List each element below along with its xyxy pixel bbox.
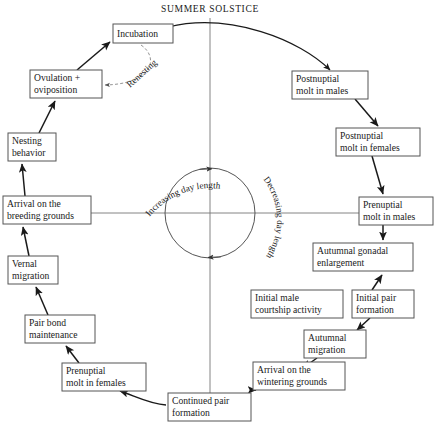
node-label: Arrival on the — [257, 364, 311, 375]
node-label: Autumnal gonadal — [317, 245, 388, 256]
node-initial-courtship[interactable]: Initial malecourtship activity — [251, 290, 343, 318]
node-label: migration — [12, 270, 50, 281]
node-arrival-breeding[interactable]: Arrival on thebreeding grounds — [3, 196, 91, 224]
node-nesting[interactable]: Nestingbehavior — [8, 133, 56, 161]
edge-prenuptial-females-to-pairbond — [66, 346, 79, 363]
edge-postnuptial-males-to-postnuptial-females — [355, 99, 378, 126]
node-label: molt in females — [66, 377, 126, 388]
node-autumnal-gonadal[interactable]: Autumnal gonadalenlargement — [313, 243, 413, 271]
node-label: molt in females — [340, 142, 400, 153]
edge-vernal-to-arrival-breeding — [23, 227, 29, 256]
edge-autumnal-gonadal-to-initial-pair — [372, 275, 382, 290]
node-label: molt in males — [296, 85, 348, 96]
node-label: Continued pair — [172, 395, 230, 406]
node-prenuptial-m[interactable]: Prenuptialmolt in males — [359, 197, 433, 225]
node-initial-pair[interactable]: Initial pairformation — [352, 290, 414, 318]
circle-top-arrow — [199, 169, 212, 170]
page-title: SUMMER SOLSTICE — [161, 3, 259, 14]
circle-bottom-arrow — [208, 257, 221, 258]
edge-ovulation-to-incubation — [77, 42, 110, 70]
node-prenuptial-f[interactable]: Prenuptialmolt in females — [62, 363, 146, 391]
node-label: breeding grounds — [7, 210, 74, 221]
node-vernal[interactable]: Vernalmigration — [8, 256, 58, 284]
node-label: courtship activity — [255, 304, 322, 315]
node-label: Initial pair — [356, 292, 397, 303]
node-pairbond[interactable]: Pair bondmaintenance — [25, 315, 95, 343]
node-incubation[interactable]: Incubation — [113, 24, 173, 43]
node-label: Pair bond — [29, 317, 66, 328]
edge-nesting-to-ovulation — [39, 101, 55, 133]
node-label: Initial male — [255, 292, 299, 303]
annual-cycle-diagram: Increasing day length Decreasing day len… — [0, 0, 435, 437]
edge-continued-pair-to-prenuptial-females — [120, 391, 166, 405]
node-arrival-wintering[interactable]: Arrival on thewintering grounds — [253, 362, 345, 390]
node-autumnal-migration[interactable]: Autumnalmigration — [304, 330, 366, 358]
decreasing-day-length-label: Decreasing day length — [262, 175, 286, 261]
node-label: formation — [172, 407, 210, 418]
node-label: migration — [308, 344, 346, 355]
node-label: Prenuptial — [66, 365, 106, 376]
node-label: Ovulation + — [34, 72, 80, 83]
node-label: Incubation — [117, 28, 158, 39]
node-label: Vernal — [12, 258, 37, 269]
node-label: formation — [356, 304, 394, 315]
edge-incubation-to-postnuptial-males — [168, 23, 330, 70]
node-label: molt in males — [363, 211, 415, 222]
node-label: behavior — [12, 147, 46, 158]
node-label: Autumnal — [308, 332, 347, 343]
node-label: maintenance — [29, 329, 77, 340]
node-label: Postnuptial — [296, 73, 340, 84]
node-ovulation[interactable]: Ovulation +oviposition — [30, 70, 102, 98]
node-label: enlargement — [317, 257, 365, 268]
node-label: oviposition — [34, 84, 77, 95]
edge-label-renesting: Renesting — [125, 57, 159, 89]
node-postnuptial-f[interactable]: Postnuptialmolt in females — [336, 128, 420, 156]
node-label: Postnuptial — [340, 130, 384, 141]
node-label: Arrival on the — [7, 198, 61, 209]
node-continued-pair[interactable]: Continued pairformation — [168, 393, 251, 421]
edge-initial-pair-to-autumnal-migration — [357, 318, 370, 330]
edge-arrival-breeding-to-nesting — [22, 164, 25, 196]
node-label: Prenuptial — [363, 199, 403, 210]
node-label: wintering grounds — [257, 376, 327, 387]
edge-pairbond-to-vernal — [36, 287, 48, 315]
node-label: Nesting — [12, 135, 42, 146]
node-postnuptial-m[interactable]: Postnuptialmolt in males — [292, 71, 368, 99]
edge-postnuptial-females-to-prenuptial-males — [372, 156, 383, 194]
